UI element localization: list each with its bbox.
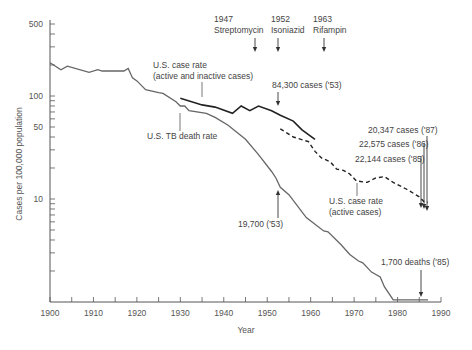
drug-year-1947: 1947 [214, 14, 233, 24]
axes: 5001005010190019101920193019401950196019… [29, 19, 451, 318]
arrow-down-icon [322, 47, 326, 52]
x-tick-label: 1980 [388, 308, 407, 318]
arrow-up-icon [276, 190, 280, 195]
x-tick-label: 1910 [84, 308, 103, 318]
annotation-19700: 19,700 ('53) [238, 219, 283, 229]
arrow-down-icon [276, 101, 280, 106]
x-tick-label: 1990 [432, 308, 451, 318]
label-case-rate-total-2: (active and inactive cases) [153, 71, 253, 81]
arrow-down-icon [253, 47, 257, 52]
tb-chart: 5001005010190019101920193019401950196019… [0, 0, 472, 350]
annotation-84300: 84,300 cases ('53) [272, 80, 342, 90]
arrow-down-icon [276, 47, 280, 52]
drug-year-1952: 1952 [271, 14, 290, 24]
annotation-20347: 20,347 cases ('87) [368, 125, 438, 135]
x-axis-label: Year [237, 325, 254, 335]
label-death-rate: U.S. TB death rate [147, 131, 218, 141]
label-case-rate-total-1: U.S. case rate [153, 60, 207, 70]
label-case-rate-active-2: (active cases) [329, 207, 382, 217]
x-tick-label: 1970 [345, 308, 364, 318]
drug-name-isoniazid: Isoniazid [271, 25, 305, 35]
label-case-rate-active-1: U.S. case rate [329, 196, 383, 206]
y-tick-label: 10 [34, 194, 44, 204]
y-tick-label: 50 [34, 122, 44, 132]
drug-name-rifampin: Rifampin [313, 25, 347, 35]
y-tick-label: 100 [29, 91, 43, 101]
series-line-0 [50, 63, 428, 300]
annotation-22144: 22,144 cases ('85) [355, 154, 425, 164]
series-lines [50, 63, 428, 300]
arrow-down-icon [425, 206, 429, 211]
y-axis-label: Cases per 100,000 population [14, 107, 24, 221]
x-tick-label: 1920 [127, 308, 146, 318]
annotations: 1947Streptomycin1952Isoniazid1963Rifampi… [147, 14, 449, 297]
x-tick-label: 1930 [171, 308, 190, 318]
annotation-1700-deaths: 1,700 deaths ('85) [381, 257, 449, 267]
arrow-down-icon [419, 292, 423, 297]
x-tick-label: 1950 [258, 308, 277, 318]
x-tick-label: 1960 [301, 308, 320, 318]
x-tick-label: 1900 [41, 308, 60, 318]
y-tick-label: 500 [29, 19, 43, 29]
annotation-22575: 22,575 cases ('86) [359, 139, 429, 149]
x-tick-label: 1940 [214, 308, 233, 318]
drug-year-1963: 1963 [313, 14, 332, 24]
drug-name-streptomycin: Streptomycin [214, 25, 264, 35]
